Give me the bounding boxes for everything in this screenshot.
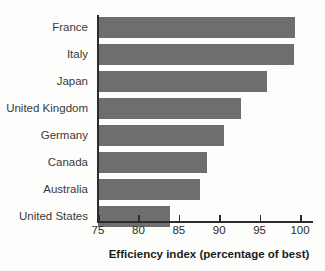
- x-axis-tick-label: 75: [92, 224, 105, 236]
- x-axis-tick: [219, 215, 221, 221]
- category-label: Australia: [0, 179, 93, 206]
- x-axis-tick-label: 90: [213, 224, 226, 236]
- x-axis-title: Efficiency index (percentage of best): [98, 248, 320, 260]
- category-label: Germany: [0, 125, 93, 152]
- y-axis-line: [97, 15, 99, 222]
- category-label: United Kingdom: [0, 98, 93, 125]
- category-label: France: [0, 17, 93, 44]
- x-axis-line: [97, 221, 313, 223]
- bar-row: [98, 125, 313, 152]
- bar-row: [98, 152, 313, 179]
- bar-row: [98, 71, 313, 98]
- category-label: Japan: [0, 71, 93, 98]
- category-axis-labels: France Italy Japan United Kingdom German…: [0, 17, 93, 233]
- bar: [98, 44, 294, 65]
- x-axis-tick-label: 85: [172, 224, 185, 236]
- bar-row: [98, 206, 313, 233]
- category-label: Italy: [0, 44, 93, 71]
- bar-row: [98, 44, 313, 71]
- bar-row: [98, 98, 313, 125]
- bar: [98, 98, 241, 119]
- bar-row: [98, 179, 313, 206]
- bar-chart: France Italy Japan United Kingdom German…: [0, 0, 325, 271]
- x-axis-tick: [260, 215, 262, 221]
- plot-area: [98, 17, 313, 221]
- x-axis-tick: [300, 215, 302, 221]
- x-axis-tick-label: 95: [253, 224, 266, 236]
- x-axis-tick: [179, 215, 181, 221]
- x-axis-tick-label: 100: [290, 224, 309, 236]
- category-label: Canada: [0, 152, 93, 179]
- bar: [98, 125, 224, 146]
- x-axis-tick: [98, 215, 100, 221]
- x-axis-tick-label: 80: [132, 224, 145, 236]
- bar: [98, 152, 207, 173]
- category-label: United States: [0, 206, 93, 233]
- bar: [98, 17, 295, 38]
- bar-row: [98, 17, 313, 44]
- bar: [98, 179, 200, 200]
- bar: [98, 71, 267, 92]
- x-axis-tick: [138, 215, 140, 221]
